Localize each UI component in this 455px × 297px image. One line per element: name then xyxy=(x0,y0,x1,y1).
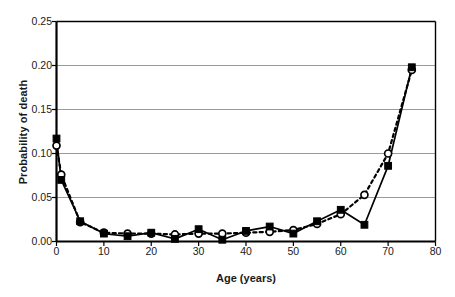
data-point-filled-square xyxy=(266,223,273,230)
x-tick-label: 20 xyxy=(133,245,169,257)
data-point-filled-square xyxy=(124,233,131,240)
x-tick-label: 30 xyxy=(181,245,217,257)
data-point-filled-square xyxy=(195,226,202,233)
data-point-filled-square xyxy=(58,177,65,184)
x-tick-label: 60 xyxy=(323,245,359,257)
data-point-open-circle xyxy=(361,191,368,198)
data-point-filled-square xyxy=(290,230,297,237)
series-line-open-circle-series xyxy=(57,70,412,235)
data-point-filled-square xyxy=(219,236,226,243)
x-tick-label: 70 xyxy=(370,245,406,257)
y-tick-label: 0.10 xyxy=(18,147,52,159)
data-point-filled-square xyxy=(361,221,368,228)
y-tick-label: 0.20 xyxy=(18,59,52,71)
y-tick-label: 0.15 xyxy=(18,103,52,115)
x-tick-label: 0 xyxy=(39,245,75,257)
x-tick-label: 50 xyxy=(275,245,311,257)
data-point-filled-square xyxy=(385,162,392,169)
data-point-filled-square xyxy=(243,228,250,235)
data-point-filled-square xyxy=(337,206,344,213)
data-point-filled-square xyxy=(314,218,321,225)
data-point-filled-square xyxy=(100,230,107,237)
data-point-open-circle xyxy=(53,142,60,149)
y-tick-label: 0.25 xyxy=(18,15,52,27)
data-point-filled-square xyxy=(77,218,84,225)
x-tick-label: 40 xyxy=(228,245,264,257)
chart-figure: Probability of death Age (years) 0.000.0… xyxy=(0,0,455,297)
data-point-filled-square xyxy=(408,64,415,71)
y-tick-label: 0.05 xyxy=(18,191,52,203)
data-point-open-circle xyxy=(385,150,392,157)
x-tick-label: 10 xyxy=(86,245,122,257)
data-point-filled-square xyxy=(172,235,179,242)
x-axis-title: Age (years) xyxy=(57,272,435,284)
x-tick-label: 80 xyxy=(418,245,454,257)
axis-frame xyxy=(57,22,436,242)
data-point-filled-square xyxy=(148,229,155,236)
gridlines xyxy=(57,66,436,198)
data-point-filled-square xyxy=(53,135,60,142)
